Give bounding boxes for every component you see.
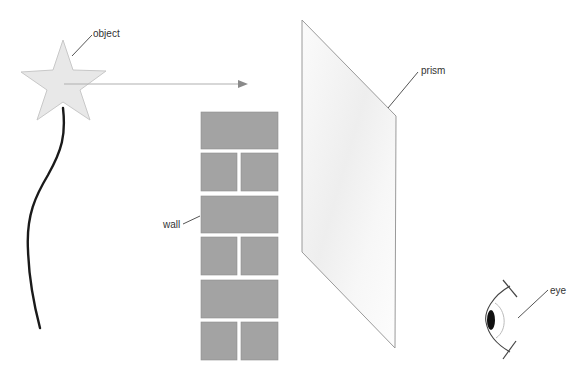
brick <box>201 237 237 275</box>
arrowhead-icon <box>238 80 248 88</box>
brick <box>201 322 237 360</box>
brick <box>201 280 278 318</box>
wall-leader-line <box>183 216 200 224</box>
prism-leader-line <box>388 72 418 108</box>
eye-icon <box>486 280 517 359</box>
wall <box>201 112 278 360</box>
brick <box>241 322 278 360</box>
prism <box>302 20 396 348</box>
eye-leader-line <box>518 290 548 318</box>
optics-diagram: object wall prism eye <box>0 0 584 378</box>
brick <box>201 153 237 191</box>
object-stick <box>28 108 64 328</box>
brick <box>201 196 278 233</box>
brick <box>201 112 278 149</box>
prism-label: prism <box>421 65 445 76</box>
brick <box>241 237 278 275</box>
eye-label: eye <box>550 285 567 296</box>
brick <box>241 153 278 191</box>
wall-label: wall <box>162 219 180 230</box>
object-leader-line <box>72 35 92 56</box>
object-label: object <box>93 28 120 39</box>
